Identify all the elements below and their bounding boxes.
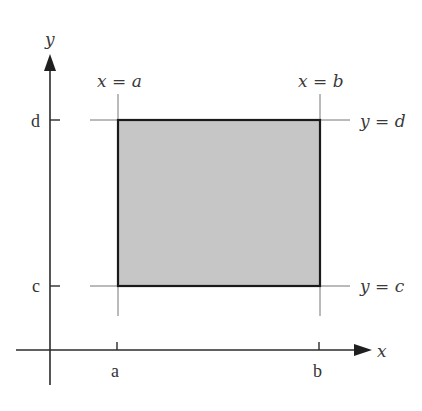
x-axis-label: x <box>377 341 387 361</box>
tick-label-c: c <box>32 276 40 296</box>
y-axis-arrow-icon <box>44 54 56 71</box>
label-y-equals-d: y = d <box>359 111 406 131</box>
x-axis-arrow-icon <box>354 344 372 356</box>
tick-label-d: d <box>31 111 40 131</box>
shaded-region <box>118 120 320 286</box>
label-y-equals-c: y = c <box>359 276 405 296</box>
tick-label-a: a <box>111 361 119 381</box>
y-axis-label: y <box>44 29 55 49</box>
rectangle-region-diagram: x y a b c d x = a x = b y = d y = c <box>0 0 422 411</box>
label-x-equals-a: x = a <box>97 71 142 91</box>
label-x-equals-b: x = b <box>298 71 344 91</box>
tick-label-b: b <box>313 361 322 381</box>
